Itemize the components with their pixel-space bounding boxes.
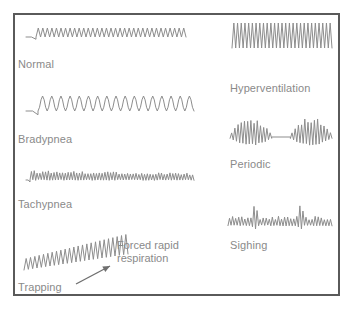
annotation-arrow-icon (66, 256, 120, 294)
waveform-path-hyperventilation (232, 23, 332, 48)
waveform-path-sighing (228, 206, 332, 229)
waveform-bradypnea (26, 92, 194, 128)
waveform-path-bradypnea (26, 96, 194, 115)
respiration-trace-bradypnea (26, 92, 194, 128)
waveform-normal (26, 22, 186, 52)
figure-frame: NormalBradypneaTachypneaTrappingHyperven… (13, 13, 340, 296)
respiration-trace-tachypnea (26, 166, 194, 192)
pattern-label-normal: Normal (18, 58, 54, 70)
pattern-label-periodic: Periodic (230, 158, 271, 170)
respiration-trace-normal (26, 22, 186, 52)
pattern-label-bradypnea: Bradypnea (18, 133, 72, 145)
pattern-label-hyperventilation: Hyperventilation (230, 82, 310, 94)
waveform-periodic (228, 118, 332, 156)
waveform-tachypnea (26, 166, 194, 192)
waveform-path-normal (26, 28, 186, 39)
pattern-label-tachypnea: Tachypnea (18, 198, 72, 210)
pattern-label-trapping: Trapping (18, 281, 62, 293)
respiration-trace-sighing (228, 200, 332, 236)
waveform-path-periodic (230, 119, 332, 145)
waveform-hyperventilation (232, 22, 332, 74)
annotation-forced-rapid-respiration: Forced rapidrespiration (117, 239, 179, 265)
pattern-label-sighing: Sighing (230, 239, 267, 251)
waveform-sighing (228, 200, 332, 236)
respiration-trace-periodic (228, 118, 332, 156)
annotation-line-2: respiration (117, 252, 179, 265)
respiration-trace-hyperventilation (232, 22, 332, 74)
annotation-line-1: Forced rapid (117, 239, 179, 252)
waveform-path-tachypnea (26, 171, 194, 182)
